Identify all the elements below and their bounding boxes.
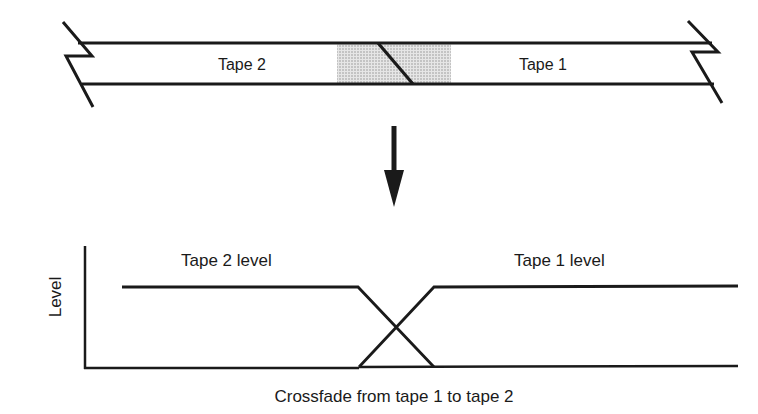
x-axis-label: Crossfade from tape 1 to tape 2 xyxy=(274,387,513,406)
tape-1-label: Tape 1 xyxy=(519,56,567,73)
down-arrow-icon xyxy=(384,126,404,207)
level-graph: Tape 2 level Tape 1 level Level Crossfad… xyxy=(46,246,738,406)
tape-2-label: Tape 2 xyxy=(218,56,266,73)
tape-2-level-label: Tape 2 level xyxy=(181,251,272,270)
left-break-symbol xyxy=(63,22,93,107)
tape-2-level-line xyxy=(122,287,434,367)
y-axis-label: Level xyxy=(46,277,65,318)
tape-1-level-label: Tape 1 level xyxy=(514,251,605,270)
x-axis-right xyxy=(359,366,738,367)
right-break-symbol xyxy=(688,21,722,103)
crossfade-diagram: Tape 2 Tape 1 Tape 2 level Tape 1 level … xyxy=(0,0,758,414)
tape-strip: Tape 2 Tape 1 xyxy=(63,21,722,107)
tape-1-level-line xyxy=(359,286,738,367)
